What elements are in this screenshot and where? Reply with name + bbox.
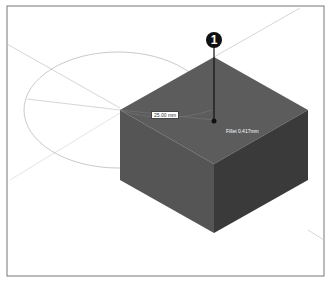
fillet-label: Fillet 0.417mm: [224, 128, 261, 134]
dimension-label: 25.00 mm: [151, 111, 179, 119]
callout-badge: 1: [206, 32, 222, 48]
isometric-cube-diagram: [0, 0, 336, 282]
callout-point: [212, 119, 217, 124]
